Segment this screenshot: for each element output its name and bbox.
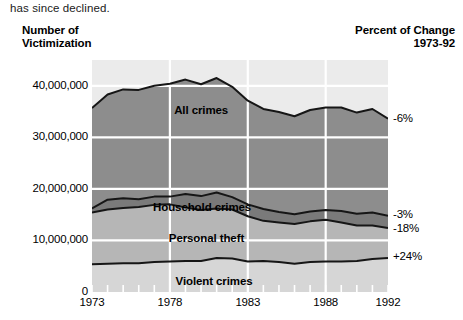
x-tick-label: 1978: [157, 296, 182, 308]
x-tick-label: 1988: [313, 296, 338, 308]
x-tick-label: 1973: [80, 296, 105, 308]
chart-page: has since declined. Number of Victimizat…: [0, 0, 463, 320]
chart-title-right-line2: 1973-92: [355, 37, 455, 50]
pct-change-violent-crimes: +24%: [393, 250, 422, 262]
chart-title-right-line1: Percent of Change: [355, 24, 455, 37]
series-label-all-crimes: All crimes: [174, 104, 228, 116]
y-tick-label: 0: [2, 285, 88, 297]
y-tick-label: 10,000,000: [2, 233, 88, 245]
series-label-household-crimes: Household crimes: [153, 201, 251, 213]
chart-title-right: Percent of Change 1973-92: [355, 24, 455, 49]
x-tick-label: 1983: [235, 296, 260, 308]
chart-plot-area: [92, 60, 388, 292]
chart-svg: [92, 60, 388, 292]
x-tick-label: 1992: [376, 296, 401, 308]
y-tick-label: 30,000,000: [2, 130, 88, 142]
pct-change-all-crimes: -6%: [393, 112, 413, 124]
pct-change-personal-theft: -3%: [393, 208, 413, 220]
series-label-violent-crimes: Violent crimes: [176, 275, 253, 287]
y-tick-label: 20,000,000: [2, 182, 88, 194]
y-tick-label: 40,000,000: [2, 79, 88, 91]
series-label-personal-theft: Personal theft: [169, 232, 244, 244]
y-axis-labels: 40,000,000 30,000,000 20,000,000 10,000,…: [0, 0, 88, 320]
pct-change-household-crimes: -18%: [393, 222, 419, 234]
